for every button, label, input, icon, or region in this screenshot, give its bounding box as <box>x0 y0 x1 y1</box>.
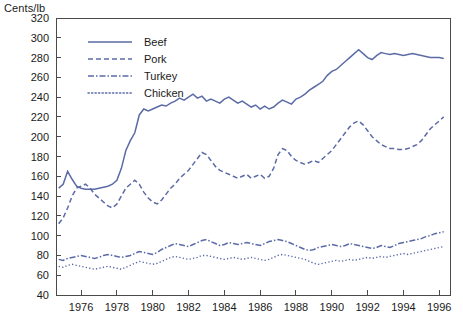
y-tick-label: 280 <box>31 52 49 64</box>
x-tick-label: 1990 <box>320 301 344 313</box>
series-line-pork <box>59 117 444 224</box>
y-tick-label: 80 <box>37 249 49 261</box>
y-axis-tick-labels: 4060801001201401601802002202402602803003… <box>31 12 49 301</box>
y-tick-label: 240 <box>31 91 49 103</box>
x-tick-label: 1978 <box>105 301 129 313</box>
x-tick-label: 1982 <box>176 301 200 313</box>
x-tick-label: 1986 <box>248 301 272 313</box>
y-tick-label: 140 <box>31 190 49 202</box>
x-axis-tick-marks <box>81 290 439 295</box>
y-tick-label: 260 <box>31 71 49 83</box>
series-line-turkey <box>59 232 444 261</box>
y-tick-label: 320 <box>31 12 49 24</box>
x-tick-label: 1980 <box>140 301 164 313</box>
x-tick-label: 1994 <box>391 301 415 313</box>
y-tick-label: 40 <box>37 289 49 301</box>
y-tick-label: 60 <box>37 269 49 281</box>
x-tick-label: 1988 <box>284 301 308 313</box>
line-chart-plot: 4060801001201401601802002202402602803003… <box>0 0 463 321</box>
series-line-beef <box>59 50 444 189</box>
y-tick-label: 120 <box>31 210 49 222</box>
x-tick-label: 1984 <box>212 301 236 313</box>
data-series-group <box>59 50 444 270</box>
y-tick-label: 100 <box>31 230 49 242</box>
y-axis-tick-marks <box>56 18 61 295</box>
legend-label-chicken: Chicken <box>144 87 184 99</box>
x-axis-tick-labels: 1976197819801982198419861988199019921994… <box>69 301 452 313</box>
y-tick-label: 220 <box>31 111 49 123</box>
x-tick-label: 1996 <box>427 301 451 313</box>
legend-label-turkey: Turkey <box>144 70 178 82</box>
x-tick-label: 1976 <box>69 301 93 313</box>
x-tick-label: 1992 <box>355 301 379 313</box>
legend-label-beef: Beef <box>144 36 168 48</box>
y-tick-label: 300 <box>31 32 49 44</box>
y-tick-label: 160 <box>31 170 49 182</box>
series-line-chicken <box>59 247 444 270</box>
legend-label-pork: Pork <box>144 53 167 65</box>
chart-container: Cents/lb 4060801001201401601802002202402… <box>0 0 463 321</box>
y-tick-label: 200 <box>31 131 49 143</box>
y-tick-label: 180 <box>31 151 49 163</box>
chart-legend: BeefPorkTurkeyChicken <box>88 36 184 99</box>
